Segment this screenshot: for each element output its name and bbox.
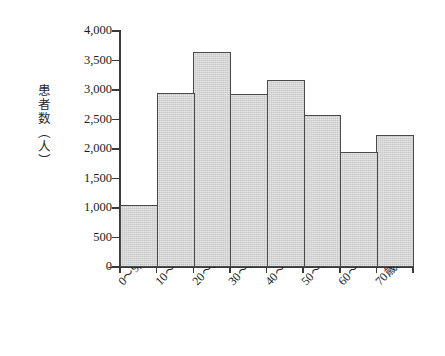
bar [230,94,268,267]
y-axis-tick-mark [112,119,120,120]
bar [267,80,305,267]
y-axis-tick-mark [112,30,120,31]
x-axis-tick-mark [119,267,121,273]
bar [376,135,414,267]
bar [120,205,158,267]
x-axis-tick-mark [302,267,304,273]
y-axis-tick-mark [112,148,120,149]
x-axis-tick-mark [229,267,231,273]
x-axis-tick-mark [376,267,378,273]
y-axis-tick-mark [112,60,120,61]
x-axis-tick-mark [412,267,414,273]
y-axis-tick-mark [112,237,120,238]
x-axis-tick-mark [193,267,195,273]
y-axis-tick-mark [112,178,120,179]
bar [340,152,378,267]
y-axis-tick-mark [112,89,120,90]
y-axis-tick-mark [112,207,120,208]
bar [303,115,341,267]
bar [157,93,195,267]
histogram-chart: 患者数（人） 05001,0001,5002,0002,5003,0003,50… [0,0,445,356]
x-axis-tick-mark [339,267,341,273]
x-axis-tick-mark [266,267,268,273]
bar [193,52,231,267]
x-axis-tick-mark [156,267,158,273]
